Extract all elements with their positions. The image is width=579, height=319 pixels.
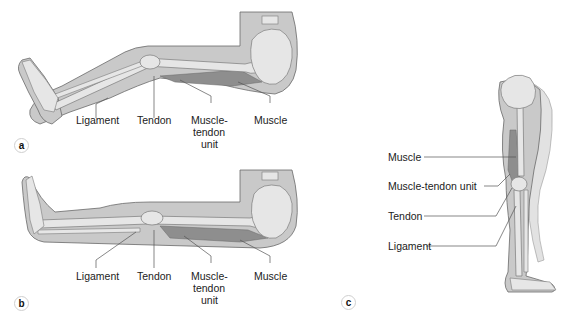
label-muscle-tendon-unit-line2: tendon [193,282,225,294]
label-ligament: Ligament [76,270,119,282]
panel-b: Ligament Tendon Muscle- tendon unit Musc… [0,160,300,319]
leg-flexed-illustration [0,0,300,160]
label-muscle: Muscle [254,114,287,126]
label-muscle: Muscle [254,270,287,282]
panel-badge-c: c [341,295,356,310]
label-ligament: Ligament [388,240,431,252]
panel-badge-b: b [14,296,29,311]
label-muscle-tendon-unit: Muscle-tendon unit [388,180,477,192]
label-tendon: Tendon [137,114,171,126]
label-muscle-tendon-unit-line3: unit [201,294,218,306]
label-muscle-tendon-unit-line2: tendon [193,126,225,138]
label-muscle: Muscle [388,151,421,163]
label-muscle-tendon-unit-line1: Muscle- [191,114,228,126]
panel-c: Muscle Muscle-tendon unit Tendon Ligamen… [330,0,579,319]
leg-extended-illustration [0,160,300,319]
panel-a: Ligament Tendon Muscle- tendon unit Musc… [0,0,300,160]
label-muscle-tendon-unit-line1: Muscle- [191,270,228,282]
label-tendon: Tendon [137,270,171,282]
leg-standing-illustration [330,0,579,319]
label-ligament: Ligament [76,114,119,126]
panel-badge-a: a [14,138,29,153]
label-muscle-tendon-unit-line3: unit [201,138,218,150]
label-tendon: Tendon [388,210,422,222]
